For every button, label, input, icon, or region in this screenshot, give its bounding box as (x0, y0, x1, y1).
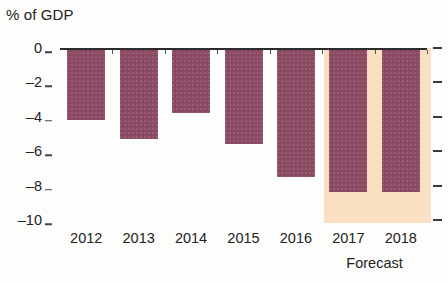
x-axis-label-2018: 2018 (385, 230, 417, 246)
x-axis-label-2014: 2014 (175, 230, 207, 246)
x-axis-label-2017: 2017 (332, 230, 364, 246)
x-axis-label-2016: 2016 (280, 230, 312, 246)
chart-container: % of GDP 0–2–4–6–8–10 201220132014201520… (0, 0, 448, 283)
x-axis-label-2013: 2013 (123, 230, 155, 246)
x-axis-label-2012: 2012 (70, 230, 102, 246)
x-axis-label-2015: 2015 (227, 230, 259, 246)
forecast-annotation-label: Forecast (346, 255, 402, 271)
x-axis-labels: 2012201320142015201620172018 (0, 0, 448, 283)
